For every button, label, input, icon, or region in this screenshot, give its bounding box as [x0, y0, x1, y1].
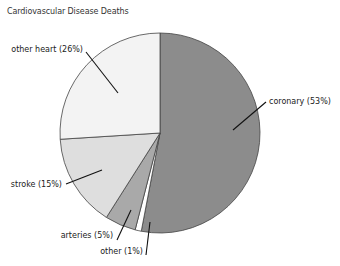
- pie-slices: [60, 33, 260, 233]
- slice-label-other-heart: other heart (26%): [11, 45, 83, 54]
- slice-label-other: other (1%): [100, 247, 143, 256]
- slice-label-stroke: stroke (15%): [11, 180, 62, 189]
- slice-label-coronary: coronary (53%): [269, 97, 331, 106]
- pie-chart: coronary (53%)other (1%)arteries (5%)str…: [0, 0, 340, 266]
- slice-label-arteries: arteries (5%): [61, 231, 113, 240]
